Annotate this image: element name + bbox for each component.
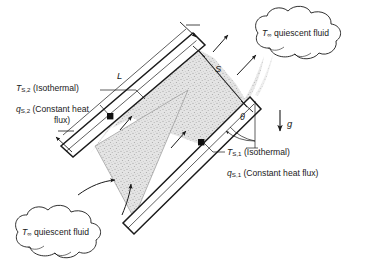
- condition-constant-flux-upper-line2: flux): [24, 115, 100, 125]
- subscript-infinity-bottom: ∞: [27, 230, 31, 237]
- label-ambient-fluid-top: T∞ quiescent fluid: [262, 28, 329, 39]
- subscript-infinity-top: ∞: [267, 31, 271, 38]
- ambient-text-top: quiescent fluid: [274, 28, 329, 38]
- condition-constant-flux-upper-line1: (Constant heat: [32, 104, 88, 114]
- subscript-S2: S,2: [21, 86, 30, 93]
- condition-isothermal-lower: (Isothermal): [244, 147, 290, 157]
- condition-isothermal-upper: (Isothermal): [33, 83, 79, 93]
- subscript-S1: S,1: [232, 150, 241, 157]
- label-gravity-g: g: [287, 118, 292, 129]
- label-plate-length-L: L: [117, 70, 122, 81]
- subscript-S2-flux: S,2: [21, 107, 30, 114]
- label-angle-theta: θ: [240, 112, 245, 122]
- condition-constant-flux-lower: (Constant heat flux): [243, 168, 318, 178]
- label-upper-plate-heat-flux: qS,2 (Constant heat flux): [16, 104, 100, 125]
- subscript-S1-flux: S,1: [232, 171, 241, 178]
- ambient-text-bottom: quiescent fluid: [34, 227, 89, 237]
- label-lower-plate-heat-flux: qS,1 (Constant heat flux): [227, 168, 318, 179]
- label-ambient-fluid-bottom: T∞ quiescent fluid: [22, 227, 89, 238]
- label-plate-spacing-S: S: [215, 63, 221, 74]
- label-upper-plate-temperature: TS,2 (Isothermal): [16, 83, 79, 94]
- figure-canvas: TS,2 (Isothermal) qS,2 (Constant heat fl…: [0, 0, 367, 266]
- label-lower-plate-temperature: TS,1 (Isothermal): [227, 147, 290, 158]
